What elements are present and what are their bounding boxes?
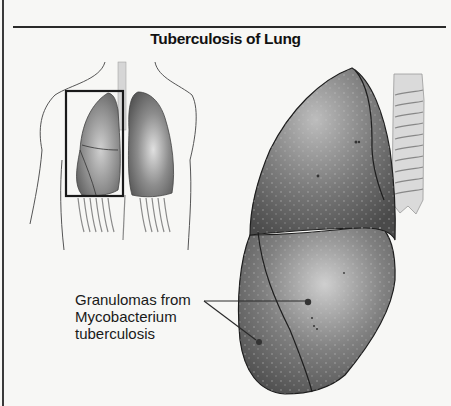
caption-line-1: Granulomas from xyxy=(75,291,191,308)
left-lung-small xyxy=(128,92,173,197)
diaphragm-muscle xyxy=(78,195,170,240)
granuloma-caption: Granulomas from Mycobacterium tuberculos… xyxy=(75,291,191,342)
right-lung-small xyxy=(77,93,121,196)
caption-line-3: tuberculosis xyxy=(75,325,191,342)
figure-page: Tuberculosis of Lung xyxy=(0,0,451,406)
right-lung-large xyxy=(238,68,395,394)
lung-illustration xyxy=(0,0,451,406)
trachea-large xyxy=(392,74,424,214)
caption-line-2: Mycobacterium xyxy=(75,308,191,325)
